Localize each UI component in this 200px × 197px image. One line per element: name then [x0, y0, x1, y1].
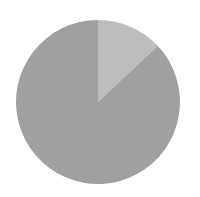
pie-slices [16, 20, 180, 184]
pie-chart [0, 0, 200, 197]
